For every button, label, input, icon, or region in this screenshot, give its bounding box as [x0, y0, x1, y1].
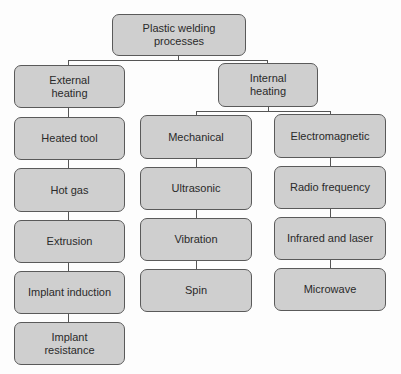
node-vibration: Vibration — [140, 218, 252, 261]
connector — [68, 263, 69, 271]
connector — [196, 261, 197, 269]
node-electromagnetic: Electromagnetic — [274, 114, 386, 158]
connector — [68, 60, 268, 61]
node-implant-induction: Implant induction — [14, 271, 125, 314]
connector — [68, 160, 69, 168]
connector — [330, 209, 331, 217]
node-hot-gas: Hot gas — [14, 168, 125, 212]
node-ultrasonic: Ultrasonic — [140, 167, 252, 210]
connector — [68, 314, 69, 322]
connector — [330, 260, 331, 268]
connector — [330, 158, 331, 166]
node-implant-resistance: Implant resistance — [14, 322, 125, 365]
node-mechanical: Mechanical — [140, 115, 252, 159]
node-heated-tool: Heated tool — [14, 117, 125, 160]
connector — [196, 210, 197, 218]
node-extrusion: Extrusion — [14, 220, 125, 263]
node-spin: Spin — [140, 269, 252, 312]
plastic-welding-tree-diagram: Plastic welding processes External heati… — [0, 0, 401, 374]
node-internal-heating: Internal heating — [218, 63, 318, 107]
node-external-heating: External heating — [14, 65, 125, 108]
node-microwave: Microwave — [274, 268, 386, 311]
node-root: Plastic welding processes — [112, 14, 246, 56]
connector — [196, 159, 197, 167]
connector — [68, 108, 69, 117]
connector — [196, 111, 330, 112]
node-radio-frequency: Radio frequency — [274, 166, 386, 209]
node-infrared-laser: Infrared and laser — [274, 217, 386, 260]
connector — [68, 212, 69, 220]
